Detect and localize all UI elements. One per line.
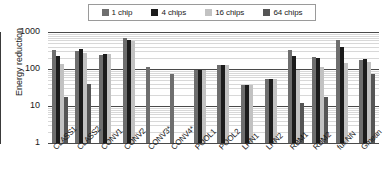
legend-item: 1 chip [102, 9, 133, 17]
bar-group [237, 32, 261, 143]
bar-group [143, 32, 167, 143]
legend-label: 64 chips [273, 9, 302, 17]
bar [225, 65, 229, 143]
legend-label: 4 chips [161, 9, 186, 17]
legend-label: 1 chip [112, 9, 133, 17]
legend-label: 16 chips [215, 9, 244, 17]
bar-group [48, 32, 72, 143]
bar-group [213, 32, 237, 143]
chart-legend: 1 chip 4 chips 16 chips 64 chips [88, 4, 316, 21]
legend-swatch-icon [102, 9, 109, 16]
bar-group [355, 32, 379, 143]
legend-item: 4 chips [151, 9, 186, 17]
x-axis-tick-labels: CLASS1CLASS2CONV1CONV2CONV3*CONV4*POOL1P… [48, 144, 379, 193]
bar-group [308, 32, 332, 143]
bar-group [261, 32, 285, 143]
bar-group [72, 32, 96, 143]
y-tick-label: 100 [6, 64, 40, 73]
legend-swatch-icon [151, 9, 158, 16]
bar-group [190, 32, 214, 143]
y-tick-label: 1 [6, 138, 40, 147]
bar [131, 41, 135, 143]
y-tick-label: 1000 [6, 27, 40, 36]
bar [344, 63, 348, 144]
bar-group [119, 32, 143, 143]
y-tick-label: 10 [6, 101, 40, 110]
bar-group [332, 32, 356, 143]
bar-group [284, 32, 308, 143]
legend-item: 64 chips [263, 9, 302, 17]
y-axis-line [0, 32, 1, 144]
bar [107, 54, 111, 143]
legend-item: 16 chips [205, 9, 244, 17]
chart-figure: 1 chip 4 chips 16 chips 64 chips Energy … [0, 0, 386, 193]
legend-swatch-icon [263, 9, 270, 16]
legend-swatch-icon [205, 9, 212, 16]
